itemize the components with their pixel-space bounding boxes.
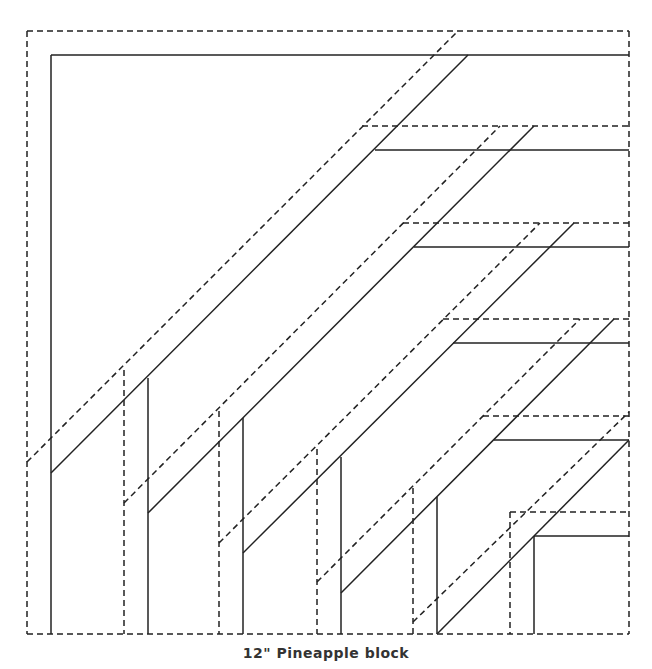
cutting-line bbox=[317, 319, 580, 582]
cutting-line bbox=[124, 126, 500, 503]
seam-line bbox=[341, 319, 614, 593]
cutting-line bbox=[413, 412, 629, 622]
cutting-line bbox=[27, 31, 458, 462]
pineapple-block-diagram bbox=[0, 0, 652, 669]
seam-line bbox=[437, 440, 629, 634]
seam-line bbox=[51, 55, 468, 473]
seam-lines bbox=[51, 55, 629, 634]
cutting-line bbox=[219, 223, 540, 543]
diagram-caption: 12" Pineapple block bbox=[0, 645, 652, 661]
seam-line bbox=[243, 223, 574, 553]
